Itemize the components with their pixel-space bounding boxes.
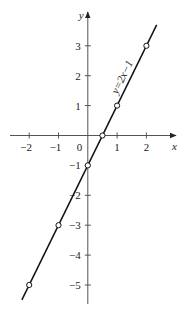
x-tick-label: −2 (20, 141, 32, 153)
data-point (100, 133, 105, 138)
x-tick-label: −1 (50, 141, 62, 153)
x-tick-label: 2 (144, 141, 150, 153)
y-tick-label: −3 (69, 219, 81, 231)
data-point (115, 103, 120, 108)
y-axis-label: y (78, 9, 84, 21)
y-tick-label: −5 (69, 279, 81, 291)
x-tick-label: 1 (114, 141, 120, 153)
series-line (22, 25, 157, 300)
x-axis-label: x (171, 140, 177, 152)
y-tick-label: 1 (75, 100, 81, 112)
origin-label: 0 (77, 141, 83, 153)
y-tick-label: −1 (69, 159, 81, 171)
axes (10, 12, 176, 304)
line-chart: −2−112321−1−2−3−4−5 x y 0 y=2x−1 (0, 0, 188, 312)
y-tick-label: 2 (75, 70, 81, 82)
y-tick-label: −4 (69, 249, 81, 261)
data-point (27, 282, 32, 287)
data-point (85, 163, 90, 168)
y-tick-label: 3 (75, 40, 81, 52)
data-point (56, 223, 61, 228)
data-point (144, 43, 149, 48)
